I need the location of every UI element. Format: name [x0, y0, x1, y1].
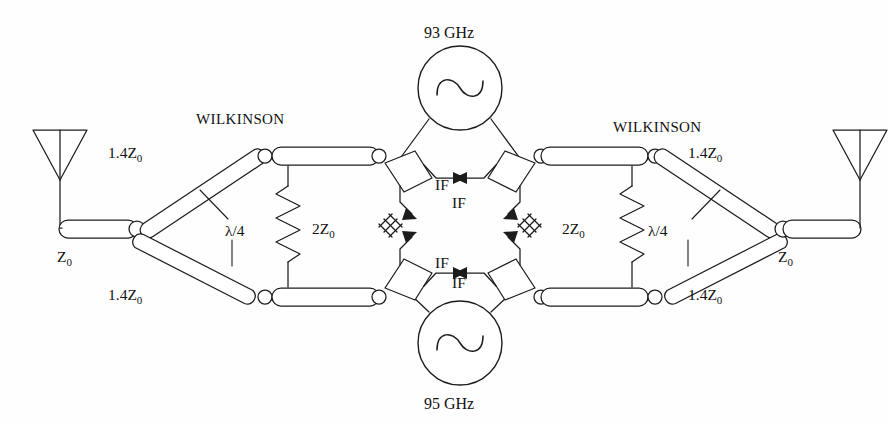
antenna-right	[833, 130, 887, 228]
label-lambda-quarter-left: λ/4	[225, 222, 245, 239]
label-2z0-right: 2Z0	[562, 220, 585, 240]
feedline-left	[59, 220, 137, 238]
output-line-right-top	[541, 147, 648, 165]
output-line-left-top	[272, 147, 379, 165]
branch-arm-left-bottom	[133, 234, 255, 304]
label-2z0-left: 2Z0	[312, 220, 335, 240]
label-if-bottom-left: IF	[435, 254, 449, 271]
label-wilkinson-left: WILKINSON	[196, 111, 285, 127]
schematic-canvas: Z0 1.4Z0 1.4Z0 λ/4	[0, 0, 889, 424]
divider-node-left-top	[258, 149, 272, 163]
label-if-top-left: IF	[435, 176, 449, 193]
divider-node-right-bottom	[648, 290, 662, 304]
mixer-feed-node-left-bottom	[372, 290, 386, 304]
isolation-resistor-left	[276, 166, 300, 287]
label-osc-95ghz: 95 GHz	[424, 395, 474, 412]
label-z0-left: Z0	[57, 248, 72, 268]
output-line-right-bottom	[541, 288, 648, 306]
oscillator-93ghz	[393, 46, 527, 168]
circuit-schematic: Z0 1.4Z0 1.4Z0 λ/4	[0, 0, 889, 424]
ground-icon-bottom-right	[518, 214, 541, 237]
ground-icon-bottom-left	[379, 214, 402, 237]
isolation-resistor-right	[620, 166, 644, 287]
label-z0-right: Z0	[778, 248, 793, 268]
label-osc-93ghz: 93 GHz	[424, 24, 474, 41]
output-line-left-bottom	[272, 288, 379, 306]
label-lambda-quarter-right: λ/4	[648, 222, 668, 239]
antenna-left	[33, 130, 87, 228]
label-if-top-right: IF	[452, 194, 466, 211]
divider-node-left-bottom	[258, 290, 272, 304]
label-if-bottom-right: IF	[452, 274, 466, 291]
label-1p4z0-right-bottom: 1.4Z0	[688, 286, 723, 306]
label-1p4z0-left-top: 1.4Z0	[108, 144, 143, 164]
label-wilkinson-right: WILKINSON	[613, 119, 702, 135]
mixer-feed-node-left-top	[372, 149, 386, 163]
label-1p4z0-right-top: 1.4Z0	[688, 144, 723, 164]
feedline-right	[783, 220, 861, 238]
label-1p4z0-left-bottom: 1.4Z0	[108, 286, 143, 306]
branch-arm-right-bottom	[665, 234, 787, 304]
